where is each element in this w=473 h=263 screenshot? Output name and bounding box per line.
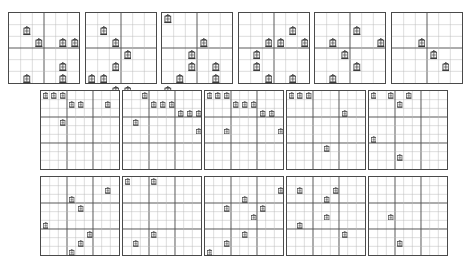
lantern-icon[interactable] — [289, 26, 297, 35]
lantern-icon[interactable] — [242, 196, 248, 203]
lantern-icon[interactable] — [105, 187, 111, 194]
lantern-icon[interactable] — [112, 62, 120, 71]
lantern-icon[interactable] — [78, 240, 84, 247]
lantern-icon[interactable] — [178, 110, 184, 117]
lantern-icon[interactable] — [160, 101, 166, 108]
lantern-icon[interactable] — [418, 38, 426, 47]
lantern-icon[interactable] — [151, 178, 157, 185]
grid-14[interactable] — [204, 176, 284, 256]
lantern-icon[interactable] — [212, 74, 220, 83]
grid-4[interactable] — [238, 12, 310, 84]
lantern-icon[interactable] — [207, 249, 213, 256]
grid-6[interactable] — [391, 12, 463, 84]
lantern-icon[interactable] — [78, 101, 84, 108]
lantern-icon[interactable] — [88, 74, 96, 83]
lantern-icon[interactable] — [289, 74, 297, 83]
lantern-icon[interactable] — [306, 92, 312, 99]
lantern-icon[interactable] — [233, 101, 239, 108]
grid-2[interactable] — [85, 12, 157, 84]
grid-8[interactable] — [122, 90, 202, 170]
lantern-icon[interactable] — [406, 92, 412, 99]
lantern-icon[interactable] — [397, 101, 403, 108]
lantern-icon[interactable] — [277, 38, 285, 47]
lantern-icon[interactable] — [324, 145, 330, 152]
lantern-icon[interactable] — [43, 222, 49, 229]
lantern-icon[interactable] — [377, 38, 385, 47]
lantern-icon[interactable] — [397, 154, 403, 161]
lantern-icon[interactable] — [35, 38, 43, 47]
lantern-icon[interactable] — [69, 101, 75, 108]
lantern-icon[interactable] — [333, 187, 339, 194]
lantern-icon[interactable] — [388, 214, 394, 221]
lantern-icon[interactable] — [224, 240, 230, 247]
lantern-icon[interactable] — [71, 38, 79, 47]
lantern-icon[interactable] — [207, 92, 213, 99]
grid-5[interactable] — [314, 12, 386, 84]
lantern-icon[interactable] — [142, 92, 148, 99]
lantern-icon[interactable] — [242, 231, 248, 238]
lantern-icon[interactable] — [253, 50, 261, 59]
lantern-icon[interactable] — [265, 74, 273, 83]
lantern-icon[interactable] — [224, 205, 230, 212]
lantern-icon[interactable] — [251, 101, 257, 108]
lantern-icon[interactable] — [371, 136, 377, 143]
lantern-icon[interactable] — [224, 128, 230, 135]
grid-12[interactable] — [40, 176, 120, 256]
lantern-icon[interactable] — [397, 240, 403, 247]
lantern-icon[interactable] — [196, 128, 202, 135]
lantern-icon[interactable] — [133, 119, 139, 126]
lantern-icon[interactable] — [187, 110, 193, 117]
lantern-icon[interactable] — [188, 62, 196, 71]
lantern-icon[interactable] — [297, 222, 303, 229]
grid-15[interactable] — [286, 176, 366, 256]
lantern-icon[interactable] — [342, 231, 348, 238]
lantern-icon[interactable] — [69, 196, 75, 203]
lantern-icon[interactable] — [251, 214, 257, 221]
lantern-icon[interactable] — [60, 92, 66, 99]
lantern-icon[interactable] — [151, 101, 157, 108]
lantern-icon[interactable] — [200, 38, 208, 47]
lantern-icon[interactable] — [260, 205, 266, 212]
lantern-icon[interactable] — [371, 92, 377, 99]
lantern-icon[interactable] — [212, 62, 220, 71]
grid-1[interactable] — [8, 12, 80, 84]
lantern-icon[interactable] — [60, 119, 66, 126]
lantern-icon[interactable] — [188, 50, 196, 59]
lantern-icon[interactable] — [297, 187, 303, 194]
lantern-icon[interactable] — [23, 26, 31, 35]
grid-11[interactable] — [368, 90, 448, 170]
lantern-icon[interactable] — [297, 92, 303, 99]
lantern-icon[interactable] — [242, 101, 248, 108]
lantern-icon[interactable] — [151, 231, 157, 238]
lantern-icon[interactable] — [215, 92, 221, 99]
lantern-icon[interactable] — [59, 62, 67, 71]
lantern-icon[interactable] — [59, 38, 67, 47]
lantern-icon[interactable] — [100, 74, 108, 83]
lantern-icon[interactable] — [342, 110, 348, 117]
lantern-icon[interactable] — [164, 14, 172, 23]
lantern-icon[interactable] — [100, 26, 108, 35]
lantern-icon[interactable] — [442, 62, 450, 71]
grid-9[interactable] — [204, 90, 284, 170]
lantern-icon[interactable] — [329, 74, 337, 83]
lantern-icon[interactable] — [324, 214, 330, 221]
lantern-icon[interactable] — [278, 128, 284, 135]
lantern-icon[interactable] — [353, 62, 361, 71]
lantern-icon[interactable] — [265, 38, 273, 47]
lantern-icon[interactable] — [253, 62, 261, 71]
lantern-icon[interactable] — [341, 50, 349, 59]
lantern-icon[interactable] — [329, 38, 337, 47]
lantern-icon[interactable] — [278, 187, 284, 194]
lantern-icon[interactable] — [78, 205, 84, 212]
lantern-icon[interactable] — [224, 92, 230, 99]
lantern-icon[interactable] — [59, 74, 67, 83]
lantern-icon[interactable] — [43, 92, 49, 99]
lantern-icon[interactable] — [169, 101, 175, 108]
lantern-icon[interactable] — [301, 38, 309, 47]
grid-16[interactable] — [368, 176, 448, 256]
lantern-icon[interactable] — [124, 50, 132, 59]
lantern-icon[interactable] — [269, 110, 275, 117]
lantern-icon[interactable] — [176, 74, 184, 83]
lantern-icon[interactable] — [125, 178, 131, 185]
grid-10[interactable] — [286, 90, 366, 170]
